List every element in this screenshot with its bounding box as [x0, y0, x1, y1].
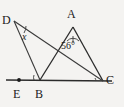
angle-label-x: x	[22, 32, 26, 42]
point-marker-E	[17, 78, 21, 82]
geometry-figure: A D B C E x 56°	[0, 0, 124, 107]
vertex-label-C: C	[106, 74, 114, 86]
vertex-label-B: B	[35, 88, 43, 100]
angle-label-56: 56°	[61, 41, 75, 51]
vertex-label-D: D	[2, 14, 11, 26]
vertex-label-E: E	[13, 88, 20, 100]
segment-A-C	[73, 27, 103, 81]
segment-A-B	[40, 27, 73, 80]
vertex-label-A: A	[67, 8, 76, 20]
